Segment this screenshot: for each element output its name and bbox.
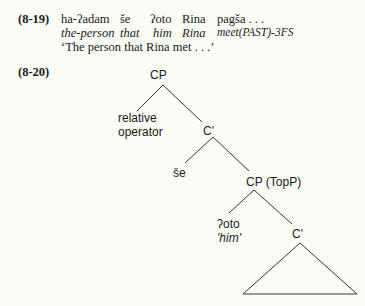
node-him-gloss: 'him' bbox=[217, 231, 241, 245]
tree-branches bbox=[0, 0, 365, 306]
node-cbar-1: C' bbox=[203, 124, 214, 138]
node-cbar-2: C' bbox=[292, 227, 303, 241]
node-relative: relative bbox=[118, 111, 157, 125]
node-cp: CP bbox=[150, 68, 167, 82]
node-operator: operator bbox=[118, 125, 163, 139]
node-oto: ʔoto bbox=[217, 217, 240, 231]
node-se: še bbox=[173, 166, 186, 180]
node-cp-topp: CP (TopP) bbox=[246, 175, 301, 189]
